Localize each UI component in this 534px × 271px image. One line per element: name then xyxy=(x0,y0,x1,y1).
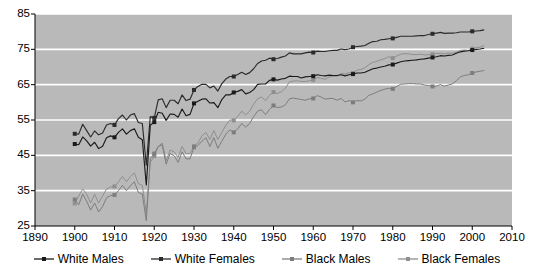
series-layer xyxy=(75,30,484,221)
legend-item-label: White Females xyxy=(175,253,255,265)
legend-line-marker-icon xyxy=(282,254,302,264)
y-tick-label: 85 xyxy=(0,8,30,19)
chart-root: 25354555657585 1890190019101920193019401… xyxy=(0,0,534,271)
y-tick-label: 45 xyxy=(0,149,30,160)
legend-item[interactable]: White Males xyxy=(34,253,124,265)
y-tick-label: 25 xyxy=(0,220,30,231)
legend-item[interactable]: Black Females xyxy=(398,253,501,265)
legend-item[interactable]: Black Males xyxy=(282,253,371,265)
y-tick-label: 35 xyxy=(0,185,30,196)
y-tick-label: 55 xyxy=(0,114,30,125)
marker-layer xyxy=(73,29,475,205)
legend-item[interactable]: White Females xyxy=(151,253,255,265)
legend-line-marker-icon xyxy=(151,254,171,264)
tick-marks xyxy=(31,14,512,230)
gridlines xyxy=(35,14,512,191)
x-tick-label: 2010 xyxy=(489,232,534,243)
legend-item-label: Black Females xyxy=(422,253,501,265)
legend-line-marker-icon xyxy=(398,254,418,264)
legend-item-label: White Males xyxy=(58,253,124,265)
legend-item-label: Black Males xyxy=(306,253,371,265)
chart-legend: White MalesWhite FemalesBlack MalesBlack… xyxy=(0,250,534,268)
legend-line-marker-icon xyxy=(34,254,54,264)
y-tick-label: 65 xyxy=(0,79,30,90)
y-tick-label: 75 xyxy=(0,43,30,54)
